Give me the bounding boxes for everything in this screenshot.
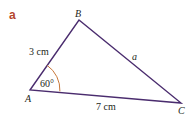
triangle-diagram: a B A C 3 cm 7 cm a 60°: [0, 0, 190, 116]
side-label-AC: 7 cm: [96, 101, 116, 112]
vertex-label-A: A: [24, 93, 32, 104]
part-label: a: [9, 8, 16, 22]
side-label-AB: 3 cm: [29, 46, 49, 57]
side-label-BC: a: [132, 51, 137, 62]
vertex-label-C: C: [178, 105, 185, 116]
triangle: [30, 20, 181, 103]
vertex-label-B: B: [75, 8, 81, 19]
angle-label-A: 60°: [40, 78, 54, 89]
